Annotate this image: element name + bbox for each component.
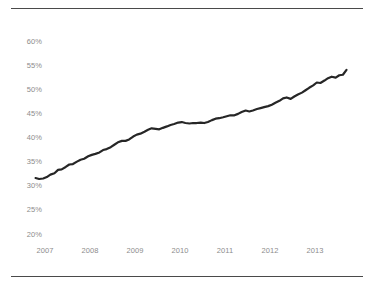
y-tick-label: 45% (12, 109, 42, 118)
y-tick-label: 25% (12, 205, 42, 214)
data-series-line (36, 70, 347, 179)
x-tick-label: 2008 (70, 246, 110, 255)
y-tick-label: 35% (12, 157, 42, 166)
x-tick-label: 2011 (205, 246, 245, 255)
bottom-divider-rule (11, 276, 363, 277)
y-tick-label: 50% (12, 85, 42, 94)
x-tick-label: 2009 (115, 246, 155, 255)
x-tick-label: 2010 (160, 246, 200, 255)
y-tick-label: 40% (12, 133, 42, 142)
y-tick-label: 60% (12, 37, 42, 46)
x-tick-label: 2012 (250, 246, 290, 255)
line-chart-figure: 20%25%30%35%40%45%50%55%60% 200720082009… (0, 0, 373, 286)
x-tick-label: 2007 (25, 246, 65, 255)
y-tick-label: 55% (12, 61, 42, 70)
chart-plot-area (0, 0, 373, 286)
x-tick-label: 2013 (295, 246, 335, 255)
chart-svg (0, 0, 373, 286)
y-tick-label: 20% (12, 230, 42, 239)
y-tick-label: 30% (12, 181, 42, 190)
